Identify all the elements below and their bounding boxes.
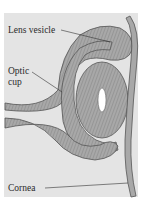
label-lens-vesicle: Lens vesicle: [8, 25, 55, 35]
optic-cup-leader: [32, 72, 62, 92]
cornea-leader: [45, 183, 128, 188]
label-optic-cup-line2: cup: [8, 77, 22, 87]
label-cornea: Cornea: [8, 183, 35, 193]
label-optic-cup-line1: Optic: [8, 66, 29, 76]
lens-lumen: [98, 88, 106, 112]
